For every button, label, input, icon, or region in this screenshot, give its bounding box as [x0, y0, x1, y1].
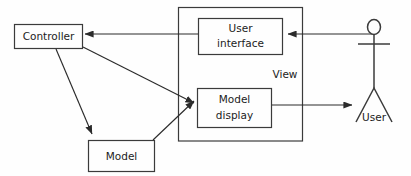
model-label: Model [106, 150, 138, 162]
edge-controller-to-model-display [83, 47, 194, 103]
model-display-label-line2: display [216, 109, 253, 121]
diagram-canvas: View Controller Model User interface Mod… [0, 0, 411, 176]
view-group-label: View [273, 68, 298, 80]
model-display-label-line1: Model [219, 93, 251, 105]
user-actor-label: User [362, 111, 387, 123]
edge-controller-to-model [56, 49, 92, 134]
user-interface-label-line2: interface [217, 37, 264, 49]
user-interface-label-line1: User [229, 22, 254, 34]
user-actor[interactable] [356, 20, 392, 123]
mvc-diagram: View Controller Model User interface Mod… [0, 0, 411, 176]
controller-label: Controller [23, 30, 75, 42]
edge-model-to-model-display [153, 101, 194, 140]
actor-head-icon [368, 20, 381, 35]
